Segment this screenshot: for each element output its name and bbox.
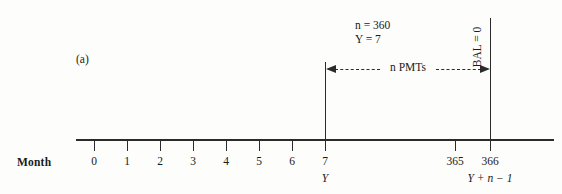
axis-tick [259, 140, 260, 151]
axis-tick-label: 7 [322, 155, 328, 167]
axis-tick-label: 0 [91, 155, 97, 167]
timeline-figure: (a) n = 360 Y = 7 BAL = 0 n PMTs Month 0… [0, 0, 562, 194]
parameter-n: n = 360 [355, 18, 390, 32]
dashed-line-right [436, 69, 481, 70]
axis-tick [127, 140, 128, 151]
axis-tick [490, 140, 491, 151]
axis-tick [94, 140, 95, 151]
axis-tick-label: 4 [223, 155, 229, 167]
axis-tick [292, 140, 293, 151]
marker-line-last-payment [490, 18, 491, 151]
axis-tick-sublabel: Y [322, 172, 328, 184]
axis-tick-label: 1 [124, 155, 130, 167]
marker-line-first-payment [325, 62, 326, 151]
timeline-axis [76, 139, 554, 141]
axis-tick [325, 140, 326, 151]
axis-tick [160, 140, 161, 151]
arrowhead-right-icon [480, 65, 490, 73]
panel-label: (a) [76, 54, 89, 66]
axis-tick-label: 366 [481, 155, 498, 167]
axis-tick-label: 5 [256, 155, 262, 167]
axis-tick [455, 140, 456, 151]
payment-span-arrow: n PMTs [326, 62, 490, 78]
axis-name-label: Month [17, 157, 51, 169]
dashed-line-left [335, 69, 380, 70]
axis-tick [193, 140, 194, 151]
axis-tick-label: 6 [289, 155, 295, 167]
axis-tick-label: 2 [157, 155, 163, 167]
axis-tick-label: 365 [446, 155, 463, 167]
axis-tick [226, 140, 227, 151]
payment-span-label: n PMTs [388, 61, 428, 73]
parameter-annotations: n = 360 Y = 7 [355, 18, 390, 46]
axis-tick-label: 3 [190, 155, 196, 167]
axis-tick-sublabel: Y + n − 1 [468, 172, 513, 184]
parameter-Y: Y = 7 [355, 32, 390, 46]
